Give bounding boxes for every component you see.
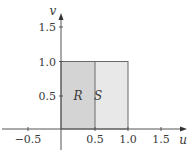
u-axis-label: u: [179, 133, 187, 147]
x-tick-label: 1.0: [119, 133, 137, 146]
x-tick-label: 0.5: [86, 133, 104, 146]
y-tick-label: 0.5: [39, 90, 57, 103]
region-r-label: R: [72, 89, 82, 103]
x-tick-label: 1.5: [152, 133, 170, 146]
u-axis-arrow-icon: [180, 127, 187, 132]
y-tick-label: 1.5: [39, 21, 57, 34]
uv-plane-diagram: −0.5 0.5 1.0 1.5 0.5 1.0 1.5 u v R S: [0, 0, 192, 155]
region-s-label: S: [94, 89, 102, 103]
y-tick-label: 1.0: [39, 56, 57, 69]
x-tick-label: −0.5: [15, 133, 42, 146]
v-axis-label: v: [50, 4, 57, 18]
v-axis-arrow-icon: [59, 13, 64, 20]
